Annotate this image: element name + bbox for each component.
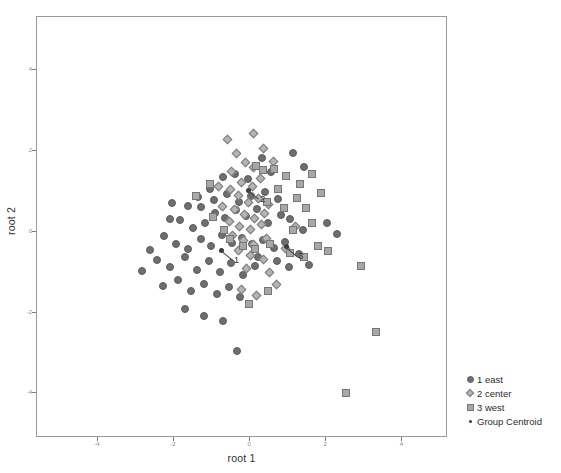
data-point [200, 280, 208, 288]
x-axis-tick-label: -4 [82, 441, 112, 447]
data-point [333, 230, 341, 238]
x-axis-tick-label: 4 [386, 441, 416, 447]
y-axis-tick-label: -2 [20, 309, 32, 315]
data-point [323, 219, 331, 227]
data-point [172, 240, 180, 248]
data-point [205, 257, 213, 265]
data-point [258, 144, 268, 154]
data-point [219, 317, 227, 325]
data-point [266, 240, 274, 248]
data-point [251, 245, 259, 253]
data-point [264, 287, 272, 295]
data-point [187, 287, 195, 295]
data-point [193, 266, 201, 274]
data-point [209, 213, 217, 221]
data-point [296, 180, 304, 188]
diamond-marker-icon [463, 390, 477, 396]
data-point [293, 194, 301, 202]
data-point [258, 154, 266, 162]
data-point [200, 312, 208, 320]
data-point [259, 166, 267, 174]
data-point [174, 276, 182, 284]
data-point [274, 185, 282, 193]
data-point [160, 232, 168, 240]
data-point [314, 242, 322, 250]
data-point [192, 192, 200, 200]
data-point [272, 280, 282, 290]
data-point [206, 180, 214, 188]
legend: 1 east 2 center 3 west Group Centroid [463, 372, 559, 428]
y-axis-tick-label: 0 [20, 228, 32, 234]
x-axis-tick-label: 2 [310, 441, 340, 447]
y-axis-tick-label: 4 [20, 66, 32, 72]
legend-label: 2 center [477, 388, 511, 399]
y-axis-tick [32, 150, 36, 151]
data-point [289, 149, 297, 157]
data-point [220, 226, 228, 234]
circle-marker-icon [463, 376, 477, 383]
data-point [216, 268, 224, 276]
data-point [265, 268, 275, 278]
data-point [153, 256, 161, 264]
data-point [233, 347, 241, 355]
data-point [317, 189, 325, 197]
legend-item-east[interactable]: 1 east [463, 372, 559, 386]
data-point [166, 215, 174, 223]
data-point [235, 222, 245, 232]
data-point [232, 149, 242, 159]
legend-item-west[interactable]: 3 west [463, 400, 559, 414]
legend-label: Group Centroid [477, 416, 542, 427]
data-point [222, 134, 232, 144]
data-point [197, 235, 205, 243]
data-point [258, 255, 268, 265]
y-axis-tick-label: -4 [20, 389, 32, 395]
legend-label: 1 east [477, 374, 503, 385]
y-axis-title: root 2 [5, 186, 17, 256]
legend-label: 3 west [477, 402, 504, 413]
data-point [197, 203, 205, 211]
data-point [342, 389, 350, 397]
centroid-label: 3 [298, 252, 303, 261]
y-axis-tick [32, 69, 36, 70]
data-point [286, 215, 294, 223]
canonical-discriminant-scatter-plot: 123 root 1 root 2 -4-2024420-2-4 1 east … [0, 0, 561, 473]
data-point [270, 165, 278, 173]
data-point [324, 247, 332, 255]
data-point [285, 263, 293, 271]
data-point [274, 195, 282, 203]
data-point [239, 242, 247, 250]
data-point [302, 204, 310, 212]
data-point [226, 235, 234, 243]
data-point [168, 199, 176, 207]
data-point [189, 224, 197, 232]
legend-item-center[interactable]: 2 center [463, 386, 559, 400]
y-axis-tick [32, 392, 36, 393]
data-point [251, 262, 259, 270]
data-point [372, 328, 380, 336]
data-point [218, 201, 228, 211]
data-point [252, 291, 262, 301]
data-point [146, 246, 154, 254]
data-point [181, 253, 189, 261]
data-point [308, 219, 316, 227]
data-point [256, 174, 266, 184]
x-axis-tick-label: 0 [234, 441, 264, 447]
x-axis-title: root 1 [36, 452, 447, 464]
data-point [246, 225, 256, 235]
data-point [225, 283, 233, 291]
y-axis-tick-label: 2 [20, 147, 32, 153]
dot-marker-icon [463, 420, 477, 423]
data-point [273, 257, 281, 265]
data-point [214, 181, 224, 191]
data-point [280, 204, 288, 212]
y-axis-tick [32, 231, 36, 232]
data-point [213, 290, 221, 298]
data-point [184, 202, 192, 210]
data-point [184, 245, 192, 253]
plot-area: 123 [36, 16, 447, 437]
data-point [236, 293, 244, 301]
data-point [305, 261, 313, 269]
legend-item-group-centroid[interactable]: Group Centroid [463, 414, 559, 428]
data-point [138, 267, 146, 275]
data-point [159, 282, 167, 290]
